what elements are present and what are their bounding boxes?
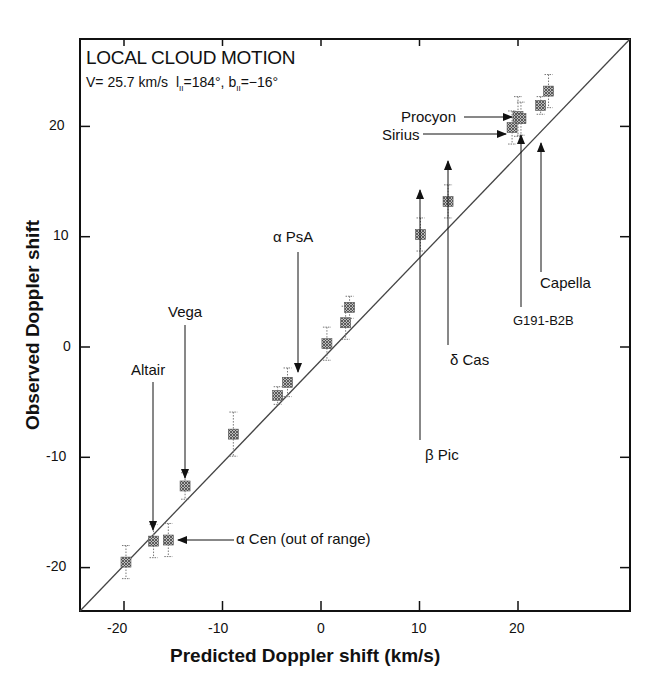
b-symbol: b (228, 74, 236, 90)
data-point (536, 97, 546, 115)
data-point (322, 327, 332, 360)
chart-title: LOCAL CLOUD MOTION (86, 47, 295, 69)
x-tick-label: 20 (509, 620, 525, 636)
label-alpha-psa: α PsA (273, 228, 313, 245)
y-tick-label: 10 (53, 227, 69, 243)
chart-subtitle: V= 25.7 km/s lII=184°, bII=−16° (86, 74, 278, 93)
x-tick-label: 0 (317, 620, 325, 636)
x-axis-label: Predicted Doppler shift (km/s) (170, 645, 440, 667)
label-procyon: Procyon (401, 108, 456, 125)
data-point (149, 525, 159, 558)
label-alpha-cen: α Cen (out of range) (236, 530, 371, 547)
label-altair: Altair (131, 361, 165, 378)
label-delta-cas: δ Cas (450, 351, 489, 368)
velocity-text: V= 25.7 km/s (86, 74, 168, 90)
y-tick-label: 20 (49, 117, 65, 133)
data-points (121, 75, 554, 579)
b-value: =−16° (241, 74, 279, 90)
annotation-arrows (153, 117, 541, 540)
y-tick-label: -10 (46, 448, 66, 464)
x-tick-label: -20 (107, 620, 127, 636)
label-beta-pic: β Pic (425, 446, 459, 463)
data-point (121, 546, 131, 579)
scatter-plot (0, 0, 662, 690)
x-tick-label: 10 (411, 620, 427, 636)
data-point (163, 523, 173, 556)
label-sirius: Sirius (382, 126, 420, 143)
y-tick-label: -20 (46, 558, 66, 574)
y-axis-label: Observed Doppler shift (22, 220, 44, 430)
x-tick-label: -10 (208, 620, 228, 636)
label-capella: Capella (540, 274, 591, 291)
l-value: =184°, (183, 74, 224, 90)
y-tick-label: 0 (63, 338, 71, 354)
data-point (228, 412, 238, 456)
label-vega: Vega (168, 303, 202, 320)
data-point (345, 296, 355, 318)
label-g191-b2b: G191-B2B (513, 313, 574, 328)
data-point (516, 102, 526, 135)
